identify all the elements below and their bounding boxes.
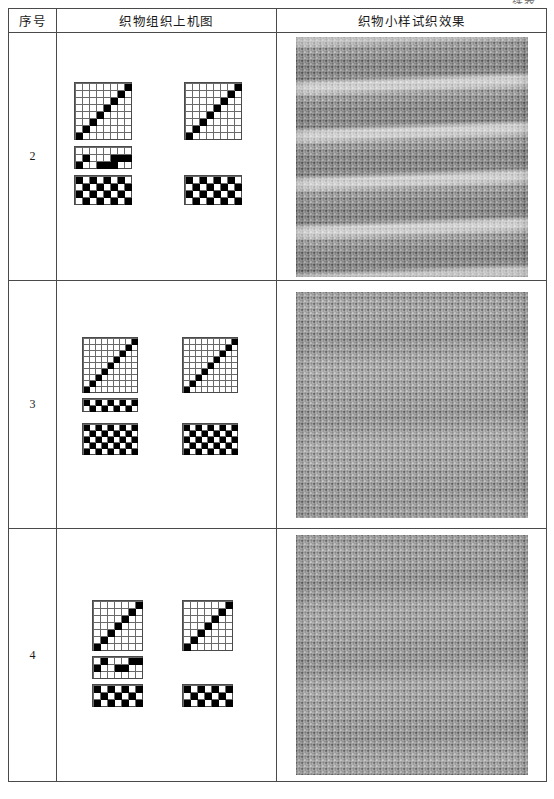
table-row: 4 bbox=[9, 529, 547, 782]
draft-filled-cell bbox=[226, 700, 233, 707]
draft-filled-cell bbox=[198, 630, 205, 637]
draft-filled-cell bbox=[220, 449, 226, 455]
draft-filled-cell bbox=[76, 133, 83, 140]
draft-cell-row2 bbox=[57, 33, 277, 281]
draft-filled-cell bbox=[108, 449, 114, 455]
weaving-draft-diagram bbox=[82, 337, 252, 472]
draft-filled-cell bbox=[228, 177, 235, 184]
draft-filled-cell bbox=[132, 437, 138, 443]
draft-filled-cell bbox=[208, 363, 214, 369]
draft-filled-cell bbox=[186, 191, 193, 198]
draft-filled-cell bbox=[101, 637, 108, 644]
draft-filled-cell bbox=[186, 177, 193, 184]
draft-filled-cell bbox=[84, 449, 90, 455]
draft-filled-cell bbox=[97, 162, 104, 169]
draft-filled-cell bbox=[97, 198, 104, 205]
draft-filled-cell bbox=[104, 177, 111, 184]
draft-filled-cell bbox=[219, 609, 226, 616]
draft-filled-cell bbox=[129, 609, 136, 616]
page-root: 续表 序号 织物组织上机图 织物小样试织效果 2 bbox=[0, 0, 554, 799]
draft-filled-cell bbox=[102, 369, 108, 375]
draft-filled-cell bbox=[226, 345, 232, 351]
threading-grid-right bbox=[182, 600, 233, 651]
draft-filled-cell bbox=[198, 686, 205, 693]
tieup-grid bbox=[82, 398, 138, 412]
draft-filled-cell bbox=[76, 191, 83, 198]
draft-filled-cell bbox=[205, 623, 212, 630]
liftplan-grid-right bbox=[184, 175, 242, 205]
header-cell-no: 序号 bbox=[9, 9, 57, 33]
draft-filled-cell bbox=[114, 406, 120, 412]
header-cell-draft: 织物组织上机图 bbox=[57, 9, 277, 33]
draft-filled-cell bbox=[207, 198, 214, 205]
draft-filled-cell bbox=[129, 693, 136, 700]
draft-filled-cell bbox=[219, 693, 226, 700]
draft-filled-cell bbox=[200, 119, 207, 126]
draft-filled-cell bbox=[136, 686, 143, 693]
header-row: 序号 织物组织上机图 织物小样试织效果 bbox=[9, 9, 547, 33]
draft-filled-cell bbox=[122, 665, 129, 672]
draft-filled-cell bbox=[184, 644, 191, 651]
draft-cell-row4 bbox=[57, 529, 277, 782]
draft-filled-cell bbox=[184, 387, 190, 393]
draft-filled-cell bbox=[104, 191, 111, 198]
draft-filled-cell bbox=[212, 700, 219, 707]
draft-filled-cell bbox=[108, 363, 114, 369]
row-number-cell: 2 bbox=[9, 33, 57, 281]
draft-filled-cell bbox=[118, 155, 125, 162]
draft-filled-cell bbox=[83, 126, 90, 133]
draft-filled-cell bbox=[97, 184, 104, 191]
vignette-layer bbox=[296, 292, 528, 518]
draft-filled-cell bbox=[90, 406, 96, 412]
draft-filled-cell bbox=[214, 357, 220, 363]
draft-filled-cell bbox=[221, 198, 228, 205]
draft-filled-cell bbox=[129, 658, 136, 665]
draft-filled-cell bbox=[226, 602, 233, 609]
draft-filled-cell bbox=[125, 84, 132, 91]
draft-filled-cell bbox=[122, 700, 129, 707]
draft-filled-cell bbox=[228, 91, 235, 98]
draft-filled-cell bbox=[96, 449, 102, 455]
draft-filled-cell bbox=[136, 602, 143, 609]
draft-filled-cell bbox=[94, 665, 101, 672]
draft-filled-cell bbox=[235, 198, 242, 205]
threading-grid-left bbox=[82, 337, 138, 393]
draft-filled-cell bbox=[102, 406, 108, 412]
draft-filled-cell bbox=[232, 437, 238, 443]
liftplan-grid-right bbox=[182, 423, 238, 455]
table-row: 2 bbox=[9, 33, 547, 281]
draft-filled-cell bbox=[118, 177, 125, 184]
draft-filled-cell bbox=[198, 700, 205, 707]
draft-filled-cell bbox=[94, 644, 101, 651]
draft-filled-cell bbox=[111, 155, 118, 162]
draft-filled-cell bbox=[125, 155, 132, 162]
draft-filled-cell bbox=[191, 693, 198, 700]
draft-filled-cell bbox=[115, 693, 122, 700]
draft-filled-cell bbox=[220, 351, 226, 357]
draft-filled-cell bbox=[111, 98, 118, 105]
draft-filled-cell bbox=[94, 686, 101, 693]
draft-filled-cell bbox=[118, 191, 125, 198]
row-number-cell: 4 bbox=[9, 529, 57, 782]
draft-filled-cell bbox=[232, 449, 238, 455]
draft-filled-cell bbox=[125, 198, 132, 205]
draft-filled-cell bbox=[118, 91, 125, 98]
draft-filled-cell bbox=[94, 700, 101, 707]
vignette-layer bbox=[296, 535, 528, 775]
draft-filled-cell bbox=[108, 700, 115, 707]
fabric-sample-swatch bbox=[296, 292, 528, 518]
draft-filled-cell bbox=[214, 191, 221, 198]
draft-filled-cell bbox=[84, 387, 90, 393]
vignette-layer bbox=[296, 37, 528, 277]
draft-filled-cell bbox=[200, 177, 207, 184]
draft-filled-cell bbox=[83, 198, 90, 205]
draft-filled-cell bbox=[214, 177, 221, 184]
sample-cell-row2 bbox=[277, 33, 547, 281]
fabric-sample-swatch bbox=[296, 535, 528, 775]
table-body: 2 3 bbox=[9, 33, 547, 782]
draft-filled-cell bbox=[108, 630, 115, 637]
row-number-cell: 3 bbox=[9, 281, 57, 529]
draft-filled-cell bbox=[202, 369, 208, 375]
draft-cell-row3 bbox=[57, 281, 277, 529]
draft-filled-cell bbox=[193, 198, 200, 205]
